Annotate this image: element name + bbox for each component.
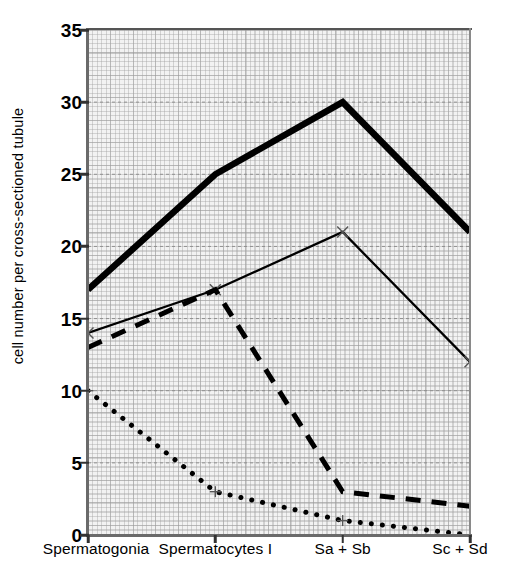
x-tick-mark (469, 535, 472, 543)
data-series-line (88, 290, 470, 506)
data-point-marker (337, 227, 348, 238)
y-tick-label: 35 (36, 21, 82, 40)
plot-area (88, 30, 470, 535)
plot-right-border (469, 28, 471, 537)
data-series-line (88, 232, 470, 362)
y-tick-label: 25 (36, 165, 82, 184)
data-point-marker (337, 515, 348, 526)
x-tick-label: Spermatogonia (43, 540, 149, 558)
y-tick-mark (80, 173, 89, 176)
y-tick-label: 10 (36, 381, 82, 400)
y-axis-tick-labels: 05101520253035 (32, 0, 82, 587)
y-tick-mark (80, 245, 89, 248)
x-axis-line (86, 534, 472, 537)
x-tick-mark (214, 535, 217, 543)
x-tick-label: Sc + Sd (432, 540, 487, 558)
x-tick-mark (341, 535, 344, 543)
y-tick-mark (80, 101, 89, 104)
x-tick-mark (87, 535, 90, 543)
y-tick-mark (80, 317, 89, 320)
figure-caption (30, 572, 490, 584)
y-tick-label: 20 (36, 237, 82, 256)
plot-top-border (86, 28, 472, 30)
y-axis-label: cell number per cross-sectioned tubule (10, 76, 26, 396)
y-tick-label: 5 (36, 453, 82, 472)
chart-figure: cell number per cross-sectioned tubule 0… (0, 0, 519, 587)
y-tick-label: 30 (36, 93, 82, 112)
series-layer (88, 30, 470, 535)
y-tick-mark (80, 29, 89, 32)
y-tick-label: 15 (36, 309, 82, 328)
y-tick-mark (80, 462, 89, 465)
y-tick-mark (80, 389, 89, 392)
